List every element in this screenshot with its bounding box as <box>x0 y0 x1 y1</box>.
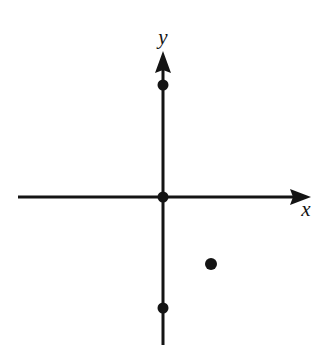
plotted-point-in-quadrant-four <box>205 258 217 270</box>
plotted-point-on-positive-y-axis <box>158 80 169 91</box>
x-axis-label: x <box>300 197 311 221</box>
coordinate-plane-figure: y x <box>0 0 321 349</box>
y-axis-label: y <box>156 25 168 49</box>
plotted-point-at-origin <box>158 192 169 203</box>
plotted-point-on-negative-y-axis <box>158 303 169 314</box>
figure-background <box>0 0 321 349</box>
coordinate-plane-svg: y x <box>0 0 321 349</box>
